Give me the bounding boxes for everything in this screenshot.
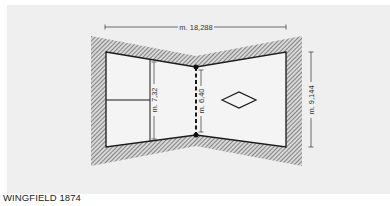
svg-text:m. 6,40: m. 6,40 (197, 88, 206, 113)
svg-text:m. 18,288: m. 18,288 (179, 23, 212, 32)
svg-text:m. 9,144: m. 9,144 (307, 85, 316, 114)
svg-text:m. 7,32: m. 7,32 (150, 87, 159, 112)
figure-caption: WINGFIELD 1874 (3, 192, 81, 203)
dimension-length: m. 18,288 (105, 23, 286, 32)
dimension-baseline-width: m. 9,144 (307, 52, 316, 147)
net-post-bottom (194, 133, 199, 138)
court-diagram: m. 7,32 m. 6,40 m. 18,288 m. 9,144 (0, 0, 390, 206)
net-post-top (194, 65, 199, 70)
